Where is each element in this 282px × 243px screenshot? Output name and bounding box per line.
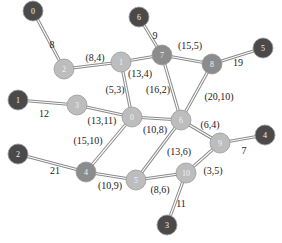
graph-diagram: 8(8,4)9(13,4)(15,5)19(5,3)(16,2)(20,10)1… — [0, 0, 282, 243]
node-external-1: 1 — [8, 90, 28, 110]
edge-label: (20,10) — [204, 91, 233, 103]
node-internal-2: 2 — [54, 59, 74, 79]
node-internal-1: 1 — [111, 52, 131, 72]
node-external-4: 4 — [255, 125, 275, 145]
node-external-2: 2 — [8, 144, 28, 164]
node-internal-3: 3 — [67, 95, 87, 115]
edge-label: 7 — [242, 145, 247, 156]
node-label: 4 — [263, 131, 267, 140]
node-label: 8 — [210, 60, 214, 69]
node-external-5: 5 — [253, 38, 273, 58]
node-label: 0 — [31, 7, 35, 16]
node-hub-4: 4 — [76, 162, 96, 182]
node-internal-5: 5 — [126, 170, 146, 190]
edge-label: (10,9) — [98, 180, 122, 192]
edge-label: 12 — [39, 108, 49, 119]
edge-label: (8,6) — [150, 184, 169, 196]
edge-label: (10,8) — [143, 124, 167, 136]
node-hub-7: 7 — [152, 45, 172, 65]
edge-label: (5,3) — [105, 84, 124, 96]
edge-label: 9 — [153, 30, 158, 41]
node-label: 7 — [160, 51, 164, 60]
node-label: 4 — [84, 168, 88, 177]
edge-label: (16,2) — [146, 84, 170, 96]
node-label: 5 — [134, 176, 138, 185]
node-label: 9 — [218, 139, 222, 148]
node-label: 2 — [62, 65, 66, 74]
node-label: 1 — [119, 58, 123, 67]
node-label: 10 — [182, 169, 190, 178]
node-internal-0: 0 — [122, 107, 142, 127]
edge-label: (15,10) — [73, 135, 102, 147]
node-label: 2 — [16, 150, 20, 159]
edge-label: (6,4) — [200, 119, 219, 131]
node-label: 3 — [165, 221, 169, 230]
node-external-6: 6 — [129, 7, 149, 27]
edge-label: (13,11) — [88, 115, 117, 127]
node-internal-9: 9 — [210, 133, 230, 153]
edge-label: 19 — [233, 57, 243, 68]
node-external-3: 3 — [157, 215, 177, 235]
edge-label: (15,5) — [178, 40, 202, 52]
edge-label: (13,4) — [128, 68, 152, 80]
node-label: 3 — [75, 101, 79, 110]
edge-label: 11 — [176, 198, 186, 209]
edge-label: (8,4) — [85, 52, 104, 64]
edge-label: (13,6) — [167, 146, 191, 158]
node-label: 1 — [16, 96, 20, 105]
node-label: 6 — [179, 116, 183, 125]
node-label: 6 — [137, 13, 141, 22]
edge-label: (3,5) — [203, 165, 222, 177]
node-external-0: 0 — [23, 1, 43, 21]
node-hub-8: 8 — [202, 54, 222, 74]
edge-label: 8 — [50, 39, 55, 50]
node-label: 0 — [130, 113, 134, 122]
edge-label: 21 — [50, 165, 60, 176]
node-internal-6: 6 — [171, 110, 191, 130]
node-internal-10: 10 — [176, 163, 196, 183]
node-label: 5 — [261, 44, 265, 53]
